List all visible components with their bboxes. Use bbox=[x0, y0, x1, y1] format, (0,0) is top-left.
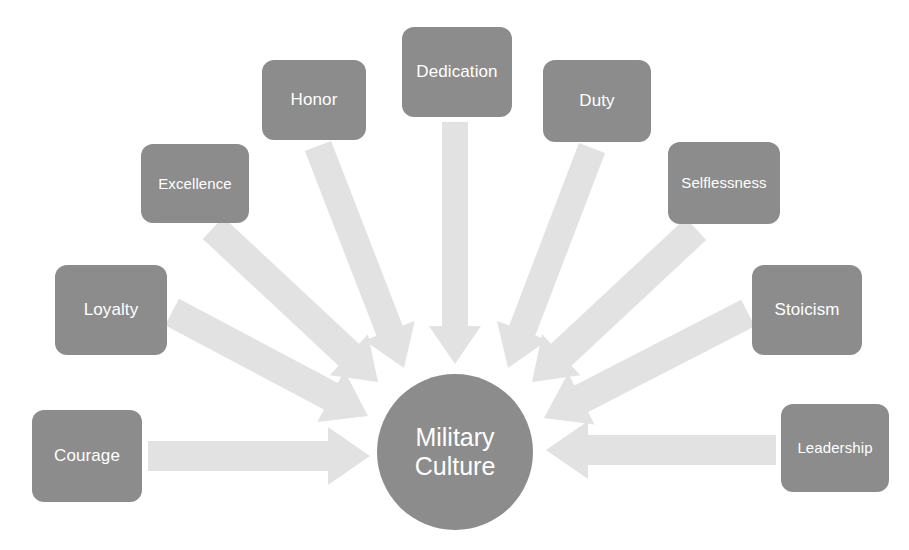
node-box-courage[interactable]: Courage bbox=[32, 410, 142, 502]
center-node-military-culture[interactable]: Military Culture bbox=[377, 374, 533, 530]
node-box-loyalty[interactable]: Loyalty bbox=[55, 265, 167, 355]
arrow-dedication-to-center bbox=[429, 122, 481, 364]
node-box-selflessness[interactable]: Selflessness bbox=[668, 142, 780, 224]
node-label-duty: Duty bbox=[579, 91, 614, 111]
center-node-label: Military Culture bbox=[415, 423, 496, 481]
center-label-line-2: Culture bbox=[415, 452, 496, 480]
node-label-dedication: Dedication bbox=[416, 62, 497, 82]
node-box-duty[interactable]: Duty bbox=[543, 60, 651, 142]
node-label-stoicism: Stoicism bbox=[774, 300, 839, 320]
node-label-courage: Courage bbox=[54, 446, 120, 466]
node-box-stoicism[interactable]: Stoicism bbox=[752, 265, 862, 355]
arrow-courage-to-center bbox=[148, 427, 370, 485]
center-label-line-1: Military bbox=[415, 423, 494, 451]
node-label-selflessness: Selflessness bbox=[681, 174, 766, 191]
node-box-honor[interactable]: Honor bbox=[262, 60, 366, 140]
node-label-loyalty: Loyalty bbox=[84, 300, 139, 320]
node-box-excellence[interactable]: Excellence bbox=[141, 144, 249, 223]
node-box-leadership[interactable]: Leadership bbox=[781, 404, 889, 492]
arrow-stoicism-to-center bbox=[544, 300, 755, 425]
node-label-excellence: Excellence bbox=[158, 175, 232, 192]
node-label-honor: Honor bbox=[291, 90, 338, 110]
arrow-leadership-to-center bbox=[546, 421, 776, 479]
node-label-leadership: Leadership bbox=[797, 439, 872, 456]
military-culture-diagram: Courage Loyalty Excellence Honor Dedicat… bbox=[0, 0, 909, 550]
node-box-dedication[interactable]: Dedication bbox=[402, 27, 512, 117]
